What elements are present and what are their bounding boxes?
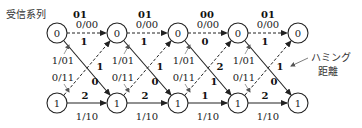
hamming-top-2: 1 bbox=[141, 36, 148, 47]
svg-text:1: 1 bbox=[235, 98, 241, 109]
branch-label-top-2: 0/00 bbox=[136, 19, 158, 30]
hamming-diag-up-1: 1 bbox=[97, 61, 104, 72]
branch-label-bottom-1: 1/10 bbox=[76, 111, 98, 122]
branch-label-bottom-2: 1/10 bbox=[136, 111, 158, 122]
branch-label-down-4: 0/11 bbox=[233, 72, 255, 83]
svg-text:0: 0 bbox=[114, 28, 120, 39]
node-bottom-2: 1 bbox=[107, 93, 127, 113]
branch-label-bottom-4: 1/10 bbox=[257, 111, 279, 122]
branch-label-bottom-3: 1/10 bbox=[197, 111, 219, 122]
svg-text:0: 0 bbox=[175, 28, 181, 39]
node-bottom-1: 1 bbox=[47, 93, 67, 113]
branch-label-up-1: 1/01 bbox=[52, 55, 74, 66]
branch-label-up-3: 1/01 bbox=[173, 55, 195, 66]
annotation-pointer-arrow bbox=[291, 58, 308, 66]
hamming-diag-down-1: 0 bbox=[92, 76, 99, 87]
trellis-diagram: 受信系列 01 01 00 01 0/00 0/00 0/00 0/00 1 1… bbox=[0, 0, 362, 128]
hamming-bottom-3: 1 bbox=[202, 90, 209, 101]
svg-text:0: 0 bbox=[295, 28, 301, 39]
svg-text:1: 1 bbox=[54, 98, 60, 109]
node-bottom-4: 1 bbox=[228, 93, 248, 113]
node-top-5: 0 bbox=[288, 23, 308, 43]
hamming-top-4: 1 bbox=[262, 36, 269, 47]
node-bottom-5: 1 bbox=[288, 93, 308, 113]
hamming-top-1: 1 bbox=[81, 36, 88, 47]
hamming-diag-down-2: 0 bbox=[152, 76, 159, 87]
node-top-3: 0 bbox=[168, 23, 188, 43]
node-top-2: 0 bbox=[107, 23, 127, 43]
svg-text:1: 1 bbox=[175, 98, 181, 109]
branch-label-down-2: 0/11 bbox=[112, 72, 134, 83]
svg-text:0: 0 bbox=[235, 28, 241, 39]
received-sequence-title: 受信系列 bbox=[6, 8, 46, 20]
svg-text:0: 0 bbox=[54, 28, 60, 39]
branch-label-down-1: 0/11 bbox=[52, 72, 74, 83]
branch-label-top-1: 0/00 bbox=[76, 19, 98, 30]
branch-label-top-4: 0/00 bbox=[257, 19, 279, 30]
branch-label-up-2: 1/01 bbox=[112, 55, 134, 66]
hamming-bottom-1: 2 bbox=[82, 90, 89, 101]
hamming-diag-down-4: 0 bbox=[271, 76, 278, 87]
hamming-diag-up-3: 2 bbox=[217, 61, 224, 72]
annotation-distance: 距離 bbox=[318, 65, 338, 77]
hamming-diag-up-2: 1 bbox=[157, 61, 164, 72]
svg-text:1: 1 bbox=[114, 98, 120, 109]
hamming-top-3: 0 bbox=[202, 36, 209, 47]
branch-label-up-4: 1/01 bbox=[233, 55, 255, 66]
node-bottom-3: 1 bbox=[168, 93, 188, 113]
node-top-1: 0 bbox=[47, 23, 67, 43]
branch-label-down-3: 0/11 bbox=[173, 72, 195, 83]
annotation-hamming: ハミング bbox=[311, 51, 351, 63]
hamming-bottom-2: 2 bbox=[142, 90, 149, 101]
branch-label-top-3: 0/00 bbox=[197, 19, 219, 30]
hamming-diag-down-3: 1 bbox=[211, 76, 218, 87]
hamming-diag-up-4: 1 bbox=[277, 61, 284, 72]
svg-text:1: 1 bbox=[295, 98, 301, 109]
node-top-4: 0 bbox=[228, 23, 248, 43]
hamming-bottom-4: 2 bbox=[262, 90, 269, 101]
